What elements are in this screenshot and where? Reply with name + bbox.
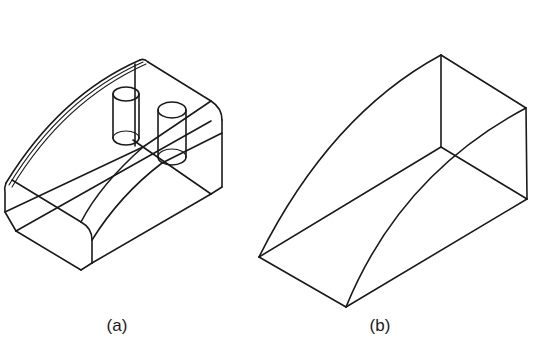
panel-b-drawing	[259, 55, 527, 307]
figure-canvas	[0, 0, 534, 363]
panel-b-label: (b)	[370, 316, 391, 336]
panel-a-drawing	[5, 59, 222, 270]
panel-a-label: (a)	[107, 316, 128, 336]
cylinder-1	[113, 64, 139, 146]
